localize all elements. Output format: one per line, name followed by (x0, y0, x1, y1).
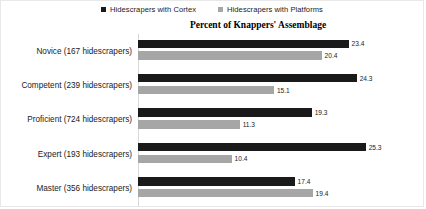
chart-title: Percent of Knappers' Assemblage (138, 20, 378, 30)
bar-row-platforms-1: 15.1 (138, 86, 290, 95)
category-group-2: Proficient (724 hidescrapers) 19.3 11.3 (1, 103, 425, 137)
legend-label-cortex: Hidescrapers with Cortex (110, 5, 196, 14)
bar-row-platforms-2: 11.3 (138, 120, 255, 129)
bar-platforms-4 (138, 189, 313, 198)
category-label-expert: Expert (193 hidescrapers) (38, 137, 132, 171)
bar-row-cortex-2: 19.3 (138, 108, 328, 117)
category-label-novice: Novice (167 hidescrapers) (36, 34, 132, 68)
bar-value-cortex-3: 25.3 (369, 144, 382, 151)
legend-item-platforms: Hidescrapers with Platforms (218, 5, 323, 14)
category-group-1: Competent (239 hidescrapers) 24.3 15.1 (1, 68, 425, 102)
category-label-competent: Competent (239 hidescrapers) (21, 68, 132, 102)
category-group-3: Expert (193 hidescrapers) 25.3 10.4 (1, 137, 425, 171)
category-label-proficient: Proficient (724 hidescrapers) (27, 103, 132, 137)
bar-value-platforms-0: 20.4 (325, 52, 338, 59)
bar-cortex-4 (138, 177, 295, 186)
chart-container: Hidescrapers with Cortex Hidescrapers wi… (0, 0, 424, 207)
legend-item-cortex: Hidescrapers with Cortex (101, 5, 196, 14)
category-group-4: Master (356 hidescrapers) 17.4 19.4 (1, 172, 425, 206)
bar-row-platforms-3: 10.4 (138, 155, 247, 164)
bar-cortex-0 (138, 40, 349, 49)
bar-value-platforms-1: 15.1 (277, 87, 290, 94)
bar-value-cortex-0: 23.4 (352, 40, 365, 47)
bar-platforms-1 (138, 86, 274, 95)
plot-area: Novice (167 hidescrapers) 23.4 20.4 Comp… (1, 34, 425, 206)
bar-value-cortex-1: 24.3 (360, 75, 373, 82)
bar-row-cortex-1: 24.3 (138, 74, 373, 83)
bar-cortex-3 (138, 143, 366, 152)
bar-cortex-2 (138, 108, 312, 117)
legend-swatch-platforms-icon (218, 7, 223, 12)
bar-value-cortex-2: 19.3 (315, 109, 328, 116)
bar-platforms-3 (138, 155, 232, 164)
bar-row-cortex-0: 23.4 (138, 40, 364, 49)
bar-value-platforms-2: 11.3 (243, 121, 255, 128)
bar-platforms-2 (138, 120, 240, 129)
bar-row-platforms-0: 20.4 (138, 51, 337, 60)
bar-platforms-0 (138, 51, 322, 60)
bar-cortex-1 (138, 74, 357, 83)
bar-value-cortex-4: 17.4 (298, 178, 311, 185)
bar-row-cortex-4: 17.4 (138, 177, 310, 186)
legend-label-platforms: Hidescrapers with Platforms (227, 5, 323, 14)
chart-legend: Hidescrapers with Cortex Hidescrapers wi… (1, 5, 423, 14)
category-label-master: Master (356 hidescrapers) (36, 172, 132, 206)
bar-value-platforms-3: 10.4 (235, 155, 248, 162)
bar-row-cortex-3: 25.3 (138, 143, 382, 152)
bar-row-platforms-4: 19.4 (138, 189, 328, 198)
category-group-0: Novice (167 hidescrapers) 23.4 20.4 (1, 34, 425, 68)
legend-swatch-cortex-icon (101, 7, 106, 12)
bar-value-platforms-4: 19.4 (316, 190, 329, 197)
